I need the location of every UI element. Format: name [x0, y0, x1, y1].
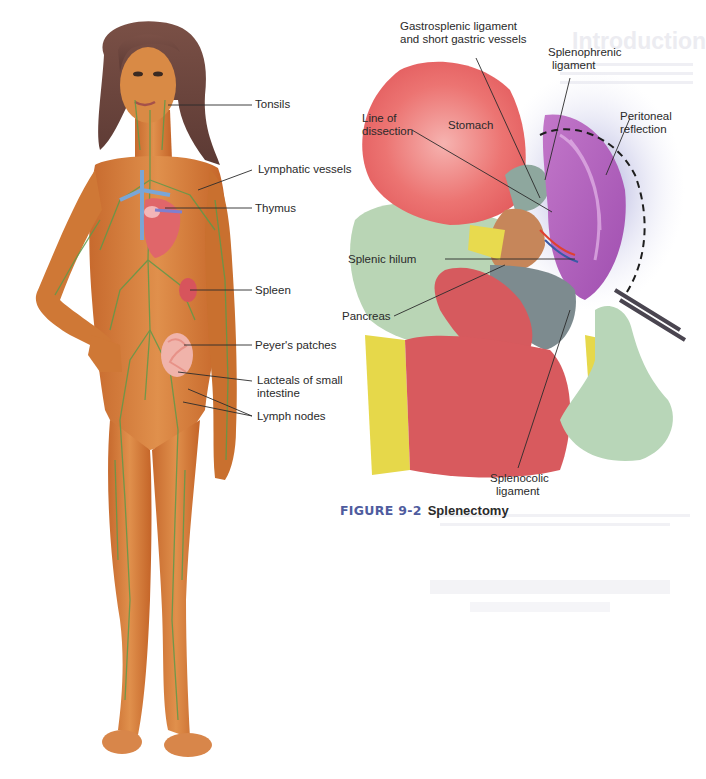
figure-title: Splenectomy [428, 503, 509, 518]
label-stomach: Stomach [448, 119, 493, 132]
label-lymph-nodes: Lymph nodes [257, 410, 326, 423]
label-peritoneal-line1: Peritoneal [620, 110, 672, 123]
figure-number: FIGURE 9-2 [340, 503, 422, 518]
label-peyers-patches: Peyer's patches [255, 339, 336, 352]
lymphatic-system-figure: Tonsils Lymphatic vessels Thymus Spleen … [0, 0, 340, 779]
label-spleen: Spleen [255, 284, 291, 297]
label-splenocolic-line2: ligament [496, 485, 539, 498]
label-pancreas: Pancreas [342, 310, 391, 323]
figure-caption: FIGURE 9-2Splenectomy [340, 503, 509, 518]
label-splenocolic-line1: Splenocolic [490, 472, 549, 485]
label-line-of-dissection-line2: dissection [362, 125, 413, 138]
splenectomy-figure: Gastrosplenic ligament and short gastric… [330, 0, 693, 520]
label-lacteals-line2: intestine [257, 387, 300, 400]
ghost-block-2 [430, 580, 670, 620]
label-splenophrenic-line2: ligament [552, 59, 595, 72]
label-tonsils: Tonsils [255, 98, 290, 111]
label-gastrosplenic-line1: Gastrosplenic ligament [400, 20, 517, 33]
label-gastrosplenic-line2: and short gastric vessels [400, 33, 527, 46]
label-line-of-dissection-line1: Line of [362, 112, 397, 125]
label-splenic-hilum: Splenic hilum [348, 253, 416, 266]
label-splenophrenic-line1: Splenophrenic [548, 46, 622, 59]
label-peritoneal-line2: reflection [620, 123, 667, 136]
label-thymus: Thymus [255, 202, 296, 215]
